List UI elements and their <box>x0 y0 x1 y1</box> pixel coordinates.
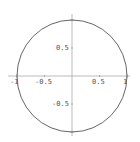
y-tick-label: 0.5 <box>56 44 69 52</box>
x-tick-label: -1 <box>10 78 18 86</box>
circle-plot: -1 -0.5 0.5 1 0.5 -0.5 <box>0 0 140 142</box>
x-tick-label: 0.5 <box>92 78 105 86</box>
y-tick-label: -0.5 <box>52 100 69 108</box>
x-tick-label: 1 <box>123 78 127 86</box>
x-tick-label: -0.5 <box>35 78 52 86</box>
